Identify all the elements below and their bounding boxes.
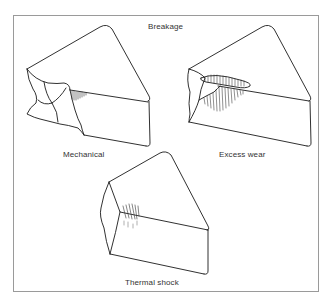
breakage-illustrations [0, 0, 330, 300]
flank-wear-hatch [204, 87, 243, 111]
mechanical-insert-drawing [27, 25, 150, 146]
label-thermal-shock: Thermal shock [125, 278, 179, 287]
label-excess-wear: Excess wear [219, 150, 265, 159]
figure-title: Breakage [148, 22, 183, 31]
thermal-cracks [123, 204, 139, 228]
excess-wear-insert-drawing [188, 25, 311, 146]
thermal-shock-insert-drawing [100, 152, 208, 274]
label-mechanical: Mechanical [63, 150, 104, 159]
